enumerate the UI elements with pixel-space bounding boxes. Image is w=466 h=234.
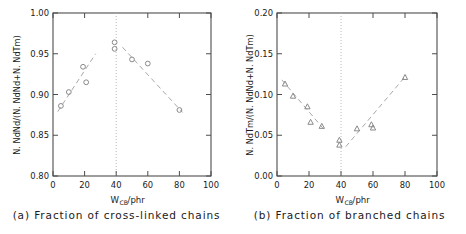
panel-a-x-ticks — [53, 13, 211, 176]
panel-a-x-tick-5: 100 — [203, 180, 219, 190]
trend-line — [346, 75, 407, 147]
trend-line — [282, 80, 324, 129]
data-point-triangle — [305, 104, 310, 109]
panel-a-plot: N. NdNd/(N. NdNd+N. NdTm) 0.80 0.85 0.90 — [0, 0, 233, 209]
panel-a-trend-lines — [58, 47, 183, 112]
panel-a-x-tick-2: 40 — [111, 180, 122, 190]
data-point-circle — [112, 46, 117, 51]
panel-a-x-tick-4: 80 — [174, 180, 185, 190]
panel-b-y-tick-0: 0.00 — [254, 171, 273, 181]
data-point-circle — [112, 40, 117, 45]
panel-b-caption: (b) Fraction of branched chains — [233, 209, 466, 221]
panel-a-y-tick-4: 1.00 — [30, 8, 49, 18]
data-point-circle — [130, 57, 135, 62]
panel-a-plot-frame — [53, 13, 211, 176]
data-point-circle — [59, 104, 64, 109]
panel-b: N. NdTm/(N. NdNd+N. NdTm) 0.00 0.05 0.10… — [233, 0, 466, 234]
panel-a-y-tick-3: 0.95 — [30, 49, 49, 59]
panel-a-y-axis-title: N. NdNd/(N. NdNd+N. NdTm) — [12, 35, 22, 155]
panel-b-x-tick-4: 80 — [400, 180, 411, 190]
panel-a-x-tick-0: 0 — [50, 180, 55, 190]
panel-b-data-points — [282, 74, 407, 147]
panel-a-y-tick-0: 0.80 — [30, 171, 49, 181]
panel-a: N. NdNd/(N. NdNd+N. NdTm) 0.80 0.85 0.90 — [0, 0, 233, 234]
panel-b-y-ticks — [277, 13, 437, 176]
data-point-triangle — [370, 125, 375, 130]
data-point-circle — [81, 64, 86, 69]
data-point-triangle — [290, 93, 295, 98]
panel-b-x-tick-2: 40 — [336, 180, 347, 190]
panel-a-x-axis-title: W CB /phr — [111, 195, 146, 206]
panel-b-x-tick-0: 0 — [274, 180, 279, 190]
panel-b-plot: N. NdTm/(N. NdNd+N. NdTm) 0.00 0.05 0.10… — [233, 0, 466, 209]
data-point-circle — [66, 90, 71, 95]
panel-b-y-tick-1: 0.05 — [254, 130, 273, 140]
data-point-triangle — [354, 126, 359, 131]
panel-a-x-tick-1: 20 — [79, 180, 90, 190]
panel-b-x-axis-title: W CB /phr — [336, 195, 371, 206]
panel-a-data-points — [59, 40, 182, 112]
panel-a-y-tick-2: 0.90 — [30, 90, 49, 100]
panel-b-x-axis-title-tail: /phr — [353, 195, 371, 205]
trend-line — [58, 54, 96, 112]
panel-b-x-tick-5: 100 — [429, 180, 445, 190]
panel-b-x-tick-3: 60 — [368, 180, 379, 190]
data-point-circle — [84, 80, 89, 85]
panel-b-trend-lines — [282, 75, 407, 147]
data-point-triangle — [319, 123, 324, 128]
panel-a-caption: (a) Fraction of cross-linked chains — [0, 209, 233, 221]
data-point-circle — [145, 61, 150, 66]
panel-b-x-ticks — [277, 13, 437, 176]
panel-b-y-tick-3: 0.15 — [254, 49, 273, 59]
panel-a-x-axis-title-main: W — [111, 195, 120, 205]
panel-b-plot-frame — [277, 13, 437, 176]
panel-b-y-tick-4: 0.20 — [254, 8, 273, 18]
figure-container: N. NdNd/(N. NdNd+N. NdTm) 0.80 0.85 0.90 — [0, 0, 466, 234]
panel-a-x-axis-title-tail: /phr — [128, 195, 146, 205]
panel-a-y-ticks — [53, 13, 211, 176]
data-point-circle — [177, 108, 182, 113]
panel-a-y-tick-1: 0.85 — [30, 130, 49, 140]
panel-b-x-axis-title-main: W — [336, 195, 345, 205]
panel-a-x-tick-3: 60 — [142, 180, 153, 190]
panel-b-x-tick-1: 20 — [304, 180, 315, 190]
data-point-triangle — [308, 119, 313, 124]
panel-b-y-tick-2: 0.10 — [254, 90, 273, 100]
